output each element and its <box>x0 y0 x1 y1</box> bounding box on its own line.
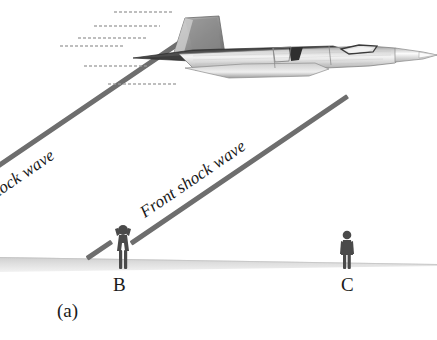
shock-wave-figure: n shock wave Front shock wave <box>0 0 437 340</box>
person-standing-icon <box>334 228 360 270</box>
ground-plane-icon <box>0 256 437 274</box>
person-covering-ears-icon <box>106 221 140 271</box>
figure-caption: (a) <box>57 300 78 322</box>
supersonic-jet-icon <box>133 8 437 92</box>
point-label-c: C <box>341 274 354 296</box>
front-shock-wave-label: Front shock wave <box>136 136 249 222</box>
point-label-b: B <box>113 274 126 296</box>
front-shock-wave-line <box>130 94 350 245</box>
